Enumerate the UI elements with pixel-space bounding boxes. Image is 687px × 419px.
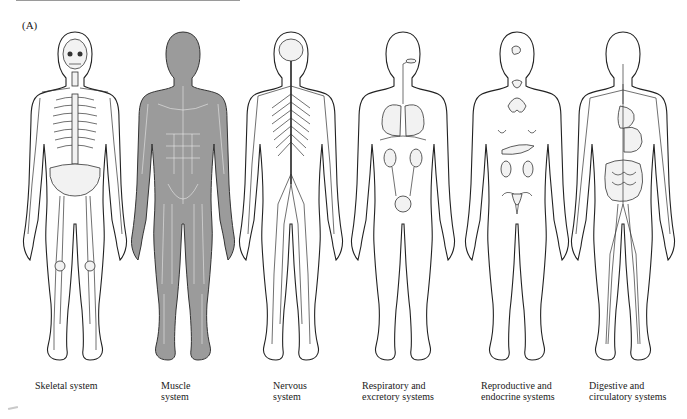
figure-nervous-system [236,24,346,364]
caption-reproductive-endocrine-systems: Reproductive and endocrine systems [481,380,555,402]
caption-skeletal-system: Skeletal system [35,380,98,391]
caption-digestive-circulatory-systems: Digestive and circulatory systems [589,380,666,402]
top-rule-divider [16,0,240,1]
caption-nervous-system: Nervous system [273,380,307,402]
figure-reproductive-endocrine-systems [462,24,572,364]
figure-digestive-circulatory-systems [568,24,678,364]
figure-respiratory-excretory-systems [348,24,458,364]
scan-artifact-mark [8,406,18,410]
caption-muscle-system: Muscle system [161,380,190,402]
figure-muscle-system [128,24,238,364]
caption-respiratory-excretory-systems: Respiratory and excretory systems [362,380,434,402]
figure-skeletal-system [20,24,130,364]
